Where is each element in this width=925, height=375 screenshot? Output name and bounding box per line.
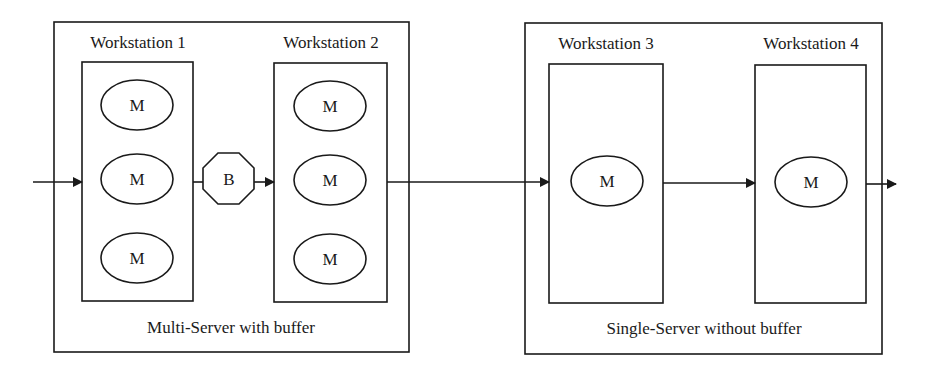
machine-label: M	[129, 170, 144, 189]
flow-diagram: Multi-Server with buffer Workstation 1 M…	[0, 0, 925, 375]
machine-label: M	[129, 249, 144, 268]
buffer-label: B	[223, 170, 234, 189]
machine-label: M	[129, 96, 144, 115]
group-multi-server: Multi-Server with buffer Workstation 1 M…	[54, 22, 409, 352]
workstation-2: Workstation 2 M M M	[274, 33, 387, 302]
machine-label: M	[322, 250, 337, 269]
workstation-3-label: Workstation 3	[558, 34, 653, 53]
machine-label: M	[599, 172, 614, 191]
group-label-multi-server: Multi-Server with buffer	[147, 318, 315, 337]
machine-label: M	[803, 173, 818, 192]
workstation-4-label: Workstation 4	[763, 34, 859, 53]
workstation-4: Workstation 4 M	[755, 34, 866, 303]
group-label-single-server: Single-Server without buffer	[606, 319, 801, 338]
group-single-server: Single-Server without buffer Workstation…	[525, 23, 882, 354]
buffer-node: B	[203, 153, 254, 204]
workstation-1: Workstation 1 M M M	[82, 33, 193, 301]
machine-label: M	[322, 97, 337, 116]
workstation-1-label: Workstation 1	[90, 33, 185, 52]
workstation-2-label: Workstation 2	[283, 33, 378, 52]
machine-label: M	[322, 171, 337, 190]
workstation-3: Workstation 3 M	[549, 34, 663, 303]
